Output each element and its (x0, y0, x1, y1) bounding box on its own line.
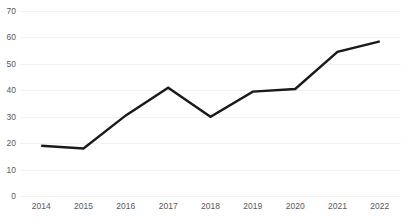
y-axis-tick-label: 20 (7, 138, 17, 148)
x-axis-tick-label: 2016 (116, 201, 135, 211)
x-axis-tick-label: 2021 (328, 201, 347, 211)
x-axis-tick-label: 2018 (201, 201, 220, 211)
y-axis-tick-label: 50 (7, 59, 17, 69)
line-chart: 010203040506070 201420152016201720182019… (0, 0, 415, 222)
x-axis-tick-labels: 201420152016201720182019202020212022 (32, 201, 390, 211)
x-axis-tick-label: 2022 (370, 201, 389, 211)
x-axis-tick-label: 2017 (159, 201, 178, 211)
y-axis-tick-label: 10 (7, 165, 17, 175)
x-axis-tick-label: 2019 (243, 201, 262, 211)
x-axis-tick-label: 2020 (286, 201, 305, 211)
y-axis-tick-label: 60 (7, 32, 17, 42)
x-axis-tick-label: 2015 (74, 201, 93, 211)
y-axis-tick-label: 70 (7, 6, 17, 16)
y-axis-tick-label: 30 (7, 112, 17, 122)
x-axis-tick-label: 2014 (32, 201, 51, 211)
chart-background (0, 0, 415, 222)
y-axis-tick-label: 0 (11, 191, 16, 201)
chart-canvas: 010203040506070 201420152016201720182019… (0, 0, 415, 222)
y-axis-tick-label: 40 (7, 85, 17, 95)
